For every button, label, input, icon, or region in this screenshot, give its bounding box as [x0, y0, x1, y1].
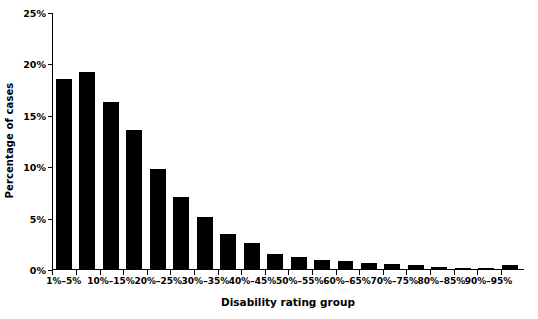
bar — [220, 234, 236, 269]
x-axis-title: Disability rating group — [52, 296, 524, 308]
x-axis-tick-mark — [477, 270, 478, 275]
y-axis-tick-label: 25% — [16, 8, 46, 19]
bar-slot — [407, 13, 430, 269]
x-axis-tick-mark — [430, 270, 431, 275]
bar — [455, 268, 471, 269]
x-axis-tick-label: 10%–15% — [87, 276, 135, 286]
bar-slot — [336, 13, 359, 269]
x-axis-tick-mark — [501, 270, 502, 275]
bar — [244, 243, 260, 269]
bar-slot — [500, 13, 523, 269]
y-axis-tick-label: 5% — [16, 213, 46, 224]
x-axis-tick-label: 50%–55% — [276, 276, 324, 286]
x-axis-tick-mark — [241, 270, 242, 275]
x-axis-tick-label: 1%–5% — [46, 276, 81, 286]
plot-area — [52, 13, 524, 270]
x-axis-tick-label: 70%–75% — [370, 276, 418, 286]
bar — [408, 265, 424, 269]
y-axis-tick-mark — [48, 167, 53, 168]
y-axis-tick-mark — [48, 219, 53, 220]
bar-slot — [195, 13, 218, 269]
x-axis-tick-mark — [170, 270, 171, 275]
bar — [431, 267, 447, 269]
bar-slot — [266, 13, 289, 269]
y-axis-tick-mark — [48, 116, 53, 117]
x-axis-tick-mark — [194, 270, 195, 275]
bar — [79, 72, 95, 269]
bar-slot — [101, 13, 124, 269]
x-axis-tick-label: 80%–85% — [418, 276, 466, 286]
bar — [126, 130, 142, 269]
bar — [338, 261, 354, 269]
bar-slot — [360, 13, 383, 269]
bar — [384, 264, 400, 269]
bar — [197, 217, 213, 269]
x-axis-tick-mark — [52, 270, 53, 275]
x-axis-tick-mark — [265, 270, 266, 275]
bar — [267, 254, 283, 269]
x-axis-tick-mark — [454, 270, 455, 275]
bar — [291, 257, 307, 269]
x-axis-tick-mark — [147, 270, 148, 275]
y-axis-tick-label: 10% — [16, 162, 46, 173]
chart-figure: Percentage of cases 0%5%10%15%20%25% 1%–… — [0, 0, 538, 319]
bar-slot — [289, 13, 312, 269]
x-axis-tick-mark — [406, 270, 407, 275]
bar-slot — [242, 13, 265, 269]
x-axis-tick-label: 30%–35% — [182, 276, 230, 286]
x-axis-tick-mark — [76, 270, 77, 275]
x-axis-tick-label: 90%–95% — [465, 276, 513, 286]
x-axis-tick-mark — [359, 270, 360, 275]
bar-slot — [78, 13, 101, 269]
bar — [56, 79, 72, 269]
bar-slot — [477, 13, 500, 269]
bar — [361, 263, 377, 269]
bar — [502, 265, 518, 269]
x-axis-tick-label: 60%–65% — [323, 276, 371, 286]
bar — [103, 102, 119, 269]
x-axis-tick-mark — [312, 270, 313, 275]
x-axis-tick-labels: 1%–5%10%–15%20%–25%30%–35%40%–45%50%–55%… — [52, 276, 524, 292]
bar-series — [53, 13, 524, 269]
x-axis-tick-mark — [288, 270, 289, 275]
bar — [314, 260, 330, 269]
bar-slot — [430, 13, 453, 269]
y-axis-tick-label: 0% — [16, 265, 46, 276]
y-axis-tick-labels: 0%5%10%15%20%25% — [16, 13, 46, 270]
x-axis-tick-mark — [336, 270, 337, 275]
bar-slot — [55, 13, 78, 269]
x-axis-tick-label: 40%–45% — [229, 276, 277, 286]
y-axis-tick-mark — [48, 13, 53, 14]
y-axis-tick-label: 15% — [16, 110, 46, 121]
bar — [173, 197, 189, 269]
x-axis-tick-mark — [123, 270, 124, 275]
bar — [150, 169, 166, 269]
bar-slot — [453, 13, 476, 269]
y-axis-tick-label: 20% — [16, 59, 46, 70]
x-axis-tick-mark — [383, 270, 384, 275]
bar-slot — [172, 13, 195, 269]
bar-slot — [148, 13, 171, 269]
bar-slot — [219, 13, 242, 269]
bar — [478, 268, 494, 269]
y-axis-title-text: Percentage of cases — [5, 82, 16, 198]
bar-slot — [383, 13, 406, 269]
x-axis-tick-mark — [218, 270, 219, 275]
x-axis-tick-label: 20%–25% — [134, 276, 182, 286]
y-axis-tick-mark — [48, 64, 53, 65]
bar-slot — [313, 13, 336, 269]
bar-slot — [125, 13, 148, 269]
x-axis-tick-mark — [100, 270, 101, 275]
